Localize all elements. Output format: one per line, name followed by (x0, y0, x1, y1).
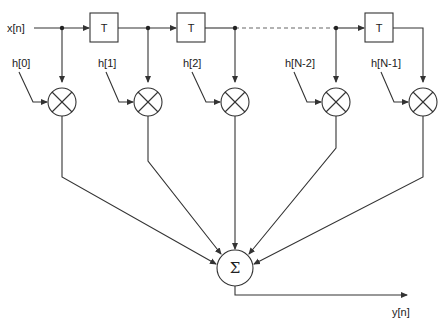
coef-label-0: h[0] (12, 57, 30, 69)
coef-label-2: h[2] (183, 57, 201, 69)
multiplier-n-1 (409, 88, 437, 116)
coef-label-1: h[1] (98, 57, 116, 69)
output-line (235, 286, 407, 295)
multiplier-0 (48, 88, 76, 116)
multiplier-1 (134, 88, 162, 116)
output-label: y[n] (392, 306, 410, 318)
multiplier-n-2 (322, 88, 350, 116)
delay-label-3: T (365, 22, 393, 34)
multiplier-2 (221, 88, 249, 116)
coef-label-n-1: h[N-1] (371, 57, 401, 69)
sum-symbol: Σ (217, 260, 253, 276)
delay-label-1: T (90, 22, 118, 34)
coef-label-n-2: h[N-2] (285, 57, 315, 69)
input-label: x[n] (7, 22, 25, 34)
delay-label-2: T (177, 22, 205, 34)
